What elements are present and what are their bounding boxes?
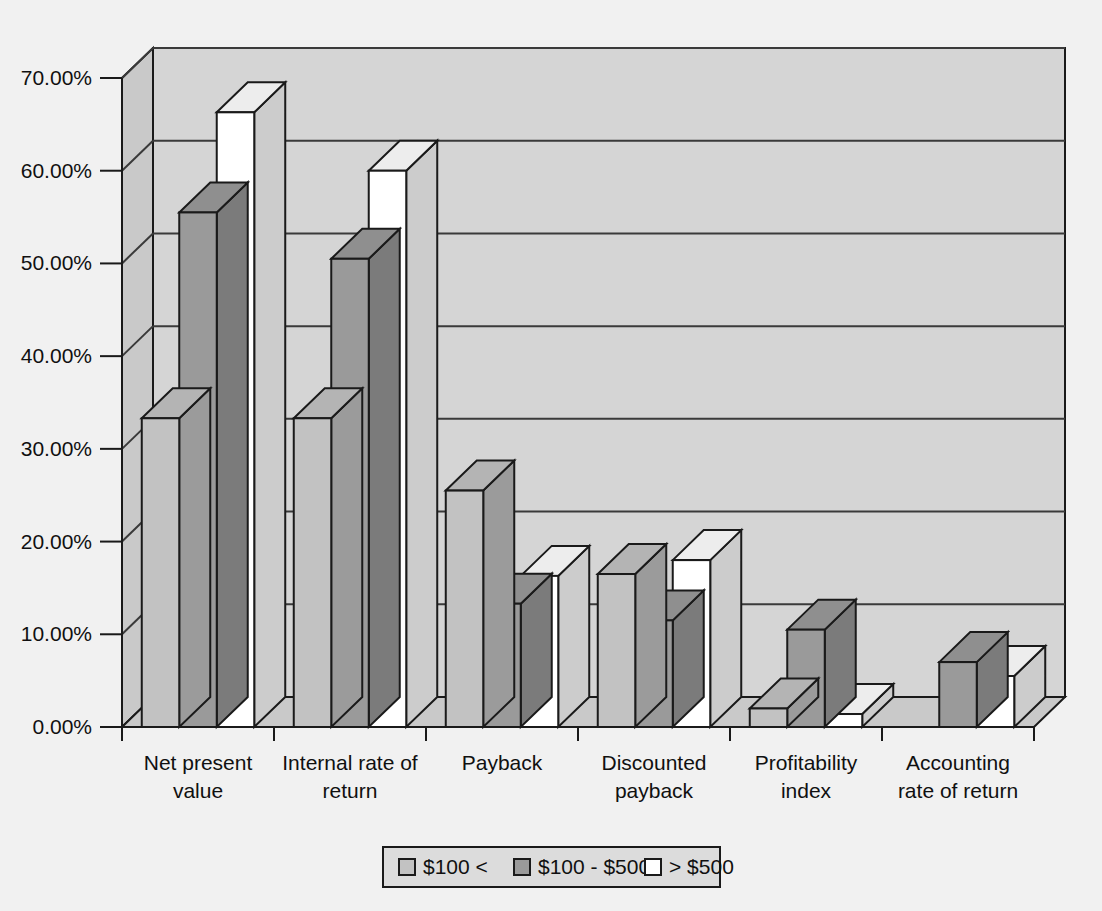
bar-side-face	[483, 461, 514, 727]
x-tick-label: payback	[615, 779, 694, 802]
legend-swatch	[645, 859, 661, 875]
x-tick-label: rate of return	[898, 779, 1018, 802]
x-tick-label: Accounting	[906, 751, 1010, 774]
legend-item[interactable]: $100 <	[399, 855, 488, 878]
bar-side-face	[558, 546, 589, 727]
bar-side-face	[710, 530, 741, 727]
bar-side-face	[179, 388, 210, 727]
y-tick-label: 50.00%	[21, 251, 92, 274]
x-tick-label: value	[173, 779, 223, 802]
bar-side-face	[635, 544, 666, 727]
x-tick-label: Payback	[462, 751, 543, 774]
bar-front-face	[142, 418, 179, 727]
bar-front-face	[294, 418, 331, 727]
bar-front-face	[750, 708, 787, 727]
bar	[446, 461, 514, 727]
legend-swatch	[514, 859, 530, 875]
bar-side-face	[254, 82, 285, 727]
bar-front-face	[939, 662, 976, 727]
x-tick-label: Internal rate of	[282, 751, 418, 774]
y-tick-label: 70.00%	[21, 66, 92, 89]
x-tick-label: Profitability	[755, 751, 858, 774]
y-tick-label: 0.00%	[32, 715, 92, 738]
chart-legend: $100 <$100 - $500> $500	[383, 847, 734, 887]
y-tick-label: 60.00%	[21, 159, 92, 182]
legend-label: $100 <	[423, 855, 488, 878]
y-tick-label: 20.00%	[21, 530, 92, 553]
bar-front-face	[598, 574, 635, 727]
chart-container: 0.00%10.00%20.00%30.00%40.00%50.00%60.00…	[0, 0, 1102, 911]
legend-item[interactable]: > $500	[645, 855, 734, 878]
legend-label: $100 - $500	[538, 855, 650, 878]
legend-label: > $500	[669, 855, 734, 878]
y-axis-ticks: 0.00%10.00%20.00%30.00%40.00%50.00%60.00…	[21, 66, 122, 738]
y-tick-label: 30.00%	[21, 437, 92, 460]
bar-front-face	[446, 491, 483, 727]
bar	[598, 544, 666, 727]
y-tick-label: 10.00%	[21, 622, 92, 645]
x-tick-label: return	[323, 779, 378, 802]
x-tick-label: Net present	[144, 751, 253, 774]
x-axis-ticks: Net presentvalueInternal rate ofreturnPa…	[122, 727, 1034, 802]
x-tick-label: Discounted	[601, 751, 706, 774]
bar	[294, 388, 362, 727]
y-tick-label: 40.00%	[21, 344, 92, 367]
bar-chart-3d: 0.00%10.00%20.00%30.00%40.00%50.00%60.00…	[0, 0, 1102, 911]
bar	[142, 388, 210, 727]
bar-side-face	[369, 229, 400, 727]
bar-side-face	[331, 388, 362, 727]
bar-side-face	[217, 182, 248, 727]
x-tick-label: index	[781, 779, 832, 802]
legend-swatch	[399, 859, 415, 875]
bar-side-face	[406, 141, 437, 727]
